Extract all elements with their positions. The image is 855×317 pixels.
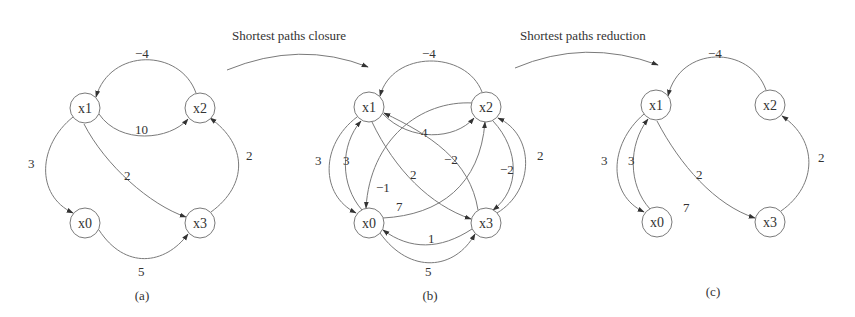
step-reduction: Shortest paths reduction: [515, 28, 658, 68]
edge-x1-x0: [46, 117, 73, 213]
edge-x0-x3: [99, 230, 188, 259]
svg-text:x3: x3: [193, 216, 207, 231]
node-x2: x2: [755, 90, 785, 120]
svg-text:x0: x0: [78, 216, 92, 231]
svg-text:x0: x0: [362, 216, 376, 231]
edge-label: 4: [421, 125, 428, 140]
step-title-closure: Shortest paths closure: [232, 28, 346, 43]
svg-text:x0: x0: [650, 215, 664, 230]
node-x2: x2: [471, 92, 501, 122]
edge-label: 3: [315, 153, 322, 168]
transition-arrow-closure: [227, 54, 368, 70]
edge-x1-x3: [84, 124, 186, 217]
edge-label: 5: [425, 264, 432, 279]
svg-text:x3: x3: [479, 216, 493, 231]
step-title-reduction: Shortest paths reduction: [520, 28, 646, 43]
edge-label: 3: [601, 153, 608, 168]
graph-c: −4 3 3 2 2 7 x1 x2 x0 x3 (c: [601, 46, 825, 299]
edge-x0-x1: [633, 119, 650, 209]
step-closure: Shortest paths closure: [227, 28, 368, 70]
edge-label: 2: [124, 168, 131, 183]
caption-a: (a): [135, 288, 149, 303]
edge-label: 2: [818, 150, 825, 165]
edge-x3-x2: [210, 118, 239, 212]
edge-label: −4: [422, 46, 436, 61]
edge-x3-x2: [781, 116, 809, 211]
graph-a: −4 10 3 2 2 5 x1 x2 x0 x3 (a): [28, 46, 253, 303]
node-x1: x1: [70, 93, 100, 123]
edge-label: −2: [444, 152, 458, 167]
graph-b: −4 4 3 3 −2 2 −2 2 −1 7 1 5: [315, 46, 544, 303]
transition-arrow-reduction: [515, 52, 658, 68]
edge-label: 2: [537, 148, 544, 163]
node-x3: x3: [471, 208, 501, 238]
node-x1: x1: [354, 92, 384, 122]
node-x0: x0: [70, 208, 100, 238]
node-x0: x0: [354, 208, 384, 238]
edge-label: 10: [135, 122, 148, 137]
edge-x3-x1: [384, 113, 478, 210]
caption-b: (b): [422, 288, 437, 303]
node-x3: x3: [755, 207, 785, 237]
edge-label: 3: [28, 156, 35, 171]
svg-text:x3: x3: [763, 215, 777, 230]
svg-text:x2: x2: [479, 100, 493, 115]
edge-label: 5: [138, 264, 145, 279]
edge-label: 3: [343, 153, 350, 168]
node-x2: x2: [185, 93, 215, 123]
svg-text:x1: x1: [78, 101, 92, 116]
edge-label: −4: [708, 46, 722, 61]
edge-label: 2: [696, 167, 703, 182]
shortest-paths-diagram: Shortest paths closure Shortest paths re…: [0, 0, 855, 317]
edge-x2-x1: [380, 61, 482, 96]
edge-label: −2: [500, 162, 514, 177]
edge-x1-x3: [657, 121, 755, 218]
edge-label: 1: [428, 231, 435, 246]
edge-x1-x2: [383, 114, 474, 135]
edge-label: −4: [135, 46, 149, 61]
edge-x2-x1: [668, 57, 766, 96]
node-x0: x0: [642, 207, 672, 237]
svg-text:x1: x1: [362, 100, 376, 115]
edge-label: 7: [396, 199, 403, 214]
node-x3: x3: [185, 208, 215, 238]
edge-x2-x1: [96, 60, 196, 97]
edge-label: 2: [246, 148, 253, 163]
edge-label: 2: [410, 167, 417, 182]
residual-weight-label: 7: [683, 200, 690, 215]
svg-text:x2: x2: [763, 98, 777, 113]
svg-text:x2: x2: [193, 101, 207, 116]
svg-text:x1: x1: [649, 98, 663, 113]
edge-label: 3: [628, 153, 635, 168]
edge-label: −1: [376, 180, 390, 195]
node-x1: x1: [641, 90, 671, 120]
caption-c: (c): [706, 284, 720, 299]
